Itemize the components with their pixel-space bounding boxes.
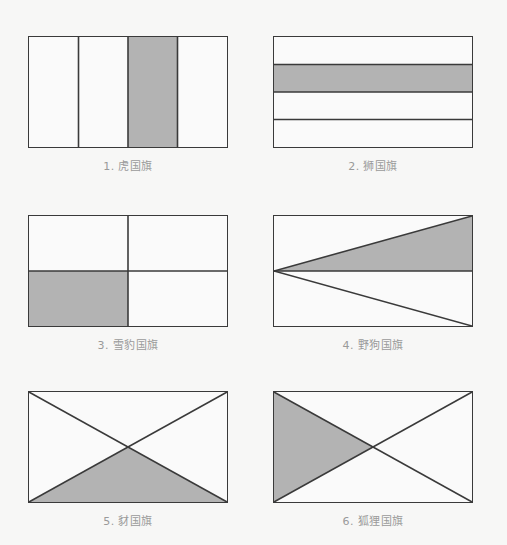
flag-graphic-3	[28, 215, 228, 327]
flag-item-5: 5. 豺国旗	[28, 391, 228, 528]
flag-graphic-4	[273, 215, 473, 327]
saltire-icon	[29, 392, 227, 502]
flag-caption-4: 4. 野狗国旗	[343, 336, 404, 352]
saltire-icon	[274, 392, 472, 502]
flag-caption-3: 3. 雪豹国旗	[98, 336, 159, 352]
left-apex-triangles-icon	[274, 216, 472, 326]
flag-item-4: 4. 野狗国旗	[273, 215, 473, 352]
flag-graphic-5	[28, 391, 228, 503]
flag-item-1: 1. 虎国旗	[28, 36, 228, 173]
vertical-stripes-icon	[29, 37, 227, 147]
flag-caption-1: 1. 虎国旗	[103, 157, 152, 173]
flag-item-3: 3. 雪豹国旗	[28, 215, 228, 352]
flag-graphic-6	[273, 391, 473, 503]
flag-graphic-1	[28, 36, 228, 148]
flag-sheet: 1. 虎国旗 2. 狮国旗	[0, 0, 507, 545]
flag-caption-2: 2. 狮国旗	[348, 157, 397, 173]
flag-item-6: 6. 狐狸国旗	[273, 391, 473, 528]
horizontal-stripes-icon	[274, 37, 472, 147]
quadrants-icon	[29, 216, 227, 326]
flag-caption-6: 6. 狐狸国旗	[343, 512, 404, 528]
flag-graphic-2	[273, 36, 473, 148]
flag-caption-5: 5. 豺国旗	[103, 512, 152, 528]
flag-item-2: 2. 狮国旗	[273, 36, 473, 173]
